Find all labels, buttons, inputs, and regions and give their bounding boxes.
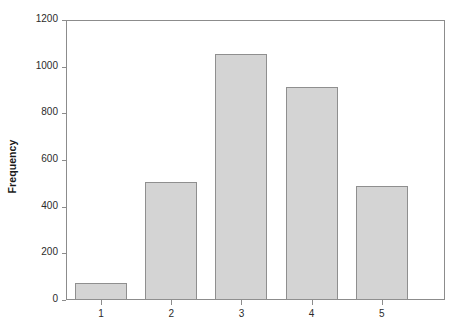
y-tick-label: 800	[41, 106, 58, 117]
bar	[215, 54, 267, 300]
x-tick-mark	[241, 300, 242, 305]
x-tick-mark	[101, 300, 102, 305]
x-axis: 12345	[66, 300, 445, 333]
y-tick-label: 1200	[36, 13, 58, 24]
x-tick-label: 5	[362, 308, 402, 319]
y-tick-label: 0	[52, 293, 58, 304]
histogram-chart: Frequency 020040060080010001200 12345	[0, 0, 462, 333]
x-tick-label: 4	[292, 308, 332, 319]
y-tick-label: 200	[41, 246, 58, 257]
y-tick-label: 600	[41, 153, 58, 164]
y-tick-label: 1000	[36, 60, 58, 71]
bars-layer	[66, 20, 445, 300]
bar	[145, 182, 197, 300]
bar	[286, 87, 338, 300]
x-tick-label: 3	[221, 308, 261, 319]
bar	[75, 283, 127, 300]
x-tick-label: 1	[81, 308, 121, 319]
y-axis: 020040060080010001200	[0, 20, 66, 300]
x-tick-mark	[382, 300, 383, 305]
x-tick-label: 2	[151, 308, 191, 319]
x-tick-mark	[312, 300, 313, 305]
x-tick-mark	[171, 300, 172, 305]
y-tick-label: 400	[41, 200, 58, 211]
bar	[356, 186, 408, 300]
